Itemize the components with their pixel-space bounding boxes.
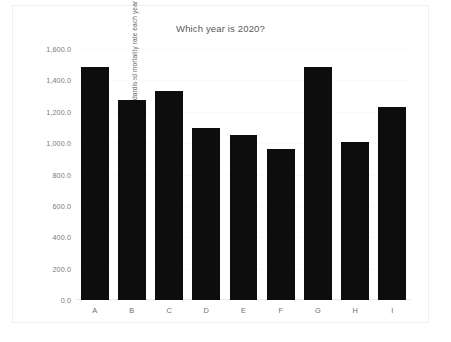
bar[interactable] [230, 135, 258, 300]
plot-area: ONS Age Standardised mortality rate each… [76, 49, 411, 300]
x-tick-label: A [76, 306, 113, 315]
bar-group: I [374, 49, 411, 300]
x-tick-label: B [113, 306, 150, 315]
chart-card: Which year is 2020? ONS Age Standardised… [12, 5, 429, 323]
x-tick-label: E [225, 306, 262, 315]
x-tick-label: H [337, 306, 374, 315]
bar-group: B [113, 49, 150, 300]
bar-group: E [225, 49, 262, 300]
y-tick-label: 200.0 [53, 264, 72, 273]
y-tick-label: 600.0 [53, 201, 72, 210]
bar[interactable] [378, 107, 406, 300]
bar[interactable] [267, 149, 295, 300]
y-tick-label: 1,000.0 [46, 139, 71, 148]
bar[interactable] [192, 128, 220, 300]
x-tick-label: G [299, 306, 336, 315]
bar-group: G [299, 49, 336, 300]
bar[interactable] [155, 91, 183, 300]
bar[interactable] [304, 67, 332, 300]
bar[interactable] [341, 142, 369, 300]
bar[interactable] [118, 100, 146, 300]
bar-group: F [262, 49, 299, 300]
x-tick-label: D [188, 306, 225, 315]
y-tick-label: 400.0 [53, 233, 72, 242]
y-tick-label: 1,400.0 [46, 76, 71, 85]
chart-title: Which year is 2020? [13, 23, 428, 34]
y-tick-label: 1,600.0 [46, 45, 71, 54]
bar-group: D [188, 49, 225, 300]
x-tick-label: C [150, 306, 187, 315]
y-tick-label: 0.0 [61, 296, 71, 305]
y-tick-label: 1,200.0 [46, 107, 71, 116]
bar-series: ABCDEFGHI [76, 49, 411, 300]
bar-group: A [76, 49, 113, 300]
y-tick-label: 800.0 [53, 170, 72, 179]
bar[interactable] [81, 67, 109, 300]
x-tick-label: F [262, 306, 299, 315]
bar-group: H [337, 49, 374, 300]
bar-group: C [150, 49, 187, 300]
x-tick-label: I [374, 306, 411, 315]
